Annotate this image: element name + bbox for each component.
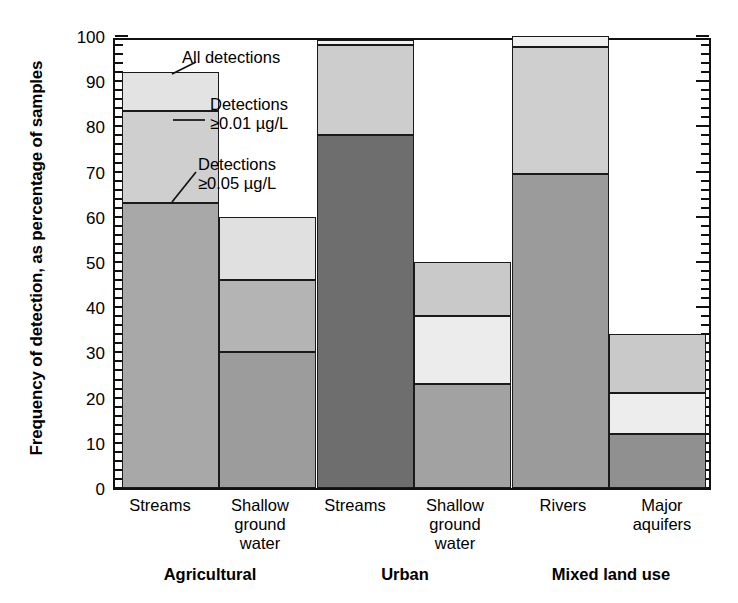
y-axis-tick [701,297,709,299]
y-axis-tick [701,44,709,46]
y-axis-tick-label: 80 [59,119,105,136]
bar-segment-ge001 [219,280,316,352]
annotation-all-detections: All detections [182,48,280,67]
y-axis-tick-label: 30 [59,345,105,362]
group-label-agricultural: Agricultural [105,565,315,584]
bar-segment-ge005 [317,135,414,488]
y-axis-tick [115,53,123,55]
y-axis-tick-label: 50 [59,255,105,272]
y-axis-tick [701,143,709,145]
y-axis-tick [701,134,709,136]
bar-segment-all [609,334,706,393]
y-axis-tick-label: 90 [59,74,105,91]
y-axis-tick [701,107,709,109]
bar-segment-all [122,72,219,110]
y-axis-tick [115,62,123,64]
bar-segment-all [219,217,316,280]
y-axis-tick [701,225,709,227]
bar-segment-ge001 [512,47,609,174]
bar-segment-ge005 [414,384,511,488]
y-axis-tick [701,53,709,55]
category-label-ag-shallow-ground-water: Shallow ground water [205,496,315,553]
group-label-mixed-land-use: Mixed land use [505,565,717,584]
y-axis-tick [701,279,709,281]
y-axis-tick [696,35,709,37]
bar-segment-ge001 [317,45,414,135]
annotation-detections-ge-005: Detections ≥0.05 µg/L [198,155,276,193]
bar-agricultural-shallow-ground-water [219,217,316,488]
y-axis-tick [701,234,709,236]
y-axis-tick [701,243,709,245]
y-axis-tick [696,261,709,263]
bar-segment-ge005 [609,434,706,488]
bar-mixed-land-use-major-aquifers [609,334,706,488]
y-axis-tick [701,89,709,91]
y-axis-tick [696,306,709,308]
y-axis-tick [701,288,709,290]
y-axis-tick-label: 70 [59,165,105,182]
bar-segment-ge001 [414,316,511,384]
y-axis-tick [701,198,709,200]
y-axis-tick [701,71,709,73]
y-axis-tick [701,98,709,100]
y-axis-tick-label: 100 [59,29,105,46]
bar-segment-ge005 [122,203,219,488]
bar-segment-all [317,40,414,45]
y-axis-tick [115,35,128,37]
bar-urban-streams [317,40,414,488]
annotation-detections-ge-001: Detections ≥0.01 µg/L [210,95,288,133]
bar-segment-ge005 [219,352,316,488]
category-label-ag-streams: Streams [105,496,215,515]
y-axis-tick-label: 40 [59,300,105,317]
bar-segment-ge001 [609,393,706,434]
y-axis-tick [696,171,709,173]
group-label-urban: Urban [300,565,510,584]
y-axis-tick-label: 0 [59,481,105,498]
bar-agricultural-streams [122,72,219,488]
y-axis-tick [696,125,709,127]
y-axis-tick [701,315,709,317]
chart-figure: Frequency of detection, as percentage of… [0,0,738,603]
y-axis-tick [701,62,709,64]
y-axis-tick [701,116,709,118]
y-axis-tick [701,207,709,209]
category-label-mixed-major-aquifers: Major aquifers [607,496,717,534]
bar-mixed-land-use-rivers [512,36,609,488]
category-label-mixed-rivers: Rivers [508,496,618,515]
y-axis-tick [115,44,123,46]
y-axis-tick [701,252,709,254]
y-axis-tick [701,153,709,155]
y-axis-tick [701,189,709,191]
bar-segment-ge005 [512,174,609,488]
y-axis-tick-label: 10 [59,436,105,453]
y-axis-tick [696,80,709,82]
y-axis-tick [701,180,709,182]
y-axis-tick [696,216,709,218]
y-axis-tick [701,324,709,326]
bar-segment-all [512,36,609,47]
y-axis-tick-label: 20 [59,391,105,408]
y-axis-tick [701,162,709,164]
plot-area [113,38,711,490]
bar-urban-shallow-ground-water [414,262,511,488]
category-label-urban-streams: Streams [300,496,410,515]
y-axis-tick [701,270,709,272]
y-axis-tick-label: 60 [59,210,105,227]
category-label-urban-shallow-ground-water: Shallow ground water [400,496,510,553]
bar-segment-all [414,262,511,316]
